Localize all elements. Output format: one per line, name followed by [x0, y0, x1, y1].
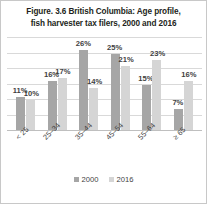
bar-value-label: 10%	[24, 89, 39, 98]
bar-2016	[58, 78, 67, 131]
plot-area: 11% 10% 16% 17%	[7, 37, 202, 131]
figure-title-line-2: fish harvester tax filers, 2000 and 2016	[10, 18, 197, 30]
legend-item-2000: 2000	[74, 175, 99, 184]
bar-slot-2000: 25%	[111, 37, 120, 131]
x-axis-tick: 55–64	[136, 132, 168, 166]
bar-group: 7% 16%	[168, 37, 200, 131]
x-axis-tick: 35–44	[73, 132, 105, 166]
bar-group: 26% 14%	[73, 37, 105, 131]
x-axis-line	[7, 130, 202, 131]
bar-value-label: 7%	[172, 98, 183, 107]
x-axis-tick: 25–34	[42, 132, 74, 166]
bar-group: 11% 10%	[10, 37, 42, 131]
legend-label: 2016	[117, 175, 134, 184]
bar-value-label: 14%	[87, 77, 102, 86]
chart-legend: 2000 2016	[1, 175, 206, 184]
bar-2016	[184, 81, 193, 131]
bar-groups: 11% 10% 16% 17%	[7, 37, 202, 131]
bar-2016	[152, 60, 161, 131]
figure-title-line-1: Figure. 3.6 British Columbia: Age profil…	[10, 6, 197, 18]
bar-slot-2016: 14%	[89, 37, 98, 131]
bar-group: 25% 21%	[105, 37, 137, 131]
x-axis-tick: ≥ 65	[168, 132, 200, 166]
bar-slot-2016: 23%	[152, 37, 161, 131]
x-axis-tick: 45–54	[105, 132, 137, 166]
legend-swatch-icon	[109, 177, 114, 182]
legend-item-2016: 2016	[109, 175, 134, 184]
bar-slot-2000: 11%	[16, 37, 25, 131]
legend-label: 2000	[82, 175, 99, 184]
bar-slot-2000: 16%	[48, 37, 57, 131]
x-axis-tick: < 25	[10, 132, 42, 166]
bar-slot-2000: 7%	[174, 37, 183, 131]
bar-value-label: 16%	[181, 70, 196, 79]
bar-slot-2016: 10%	[26, 37, 35, 131]
bar-2016	[121, 66, 130, 131]
x-axis-labels: < 25 25–34 35–44 45–54 55–64 ≥ 65	[7, 132, 202, 166]
figure-title: Figure. 3.6 British Columbia: Age profil…	[1, 1, 206, 29]
bar-value-label: 21%	[119, 55, 134, 64]
bar-value-label: 15%	[138, 74, 153, 83]
bar-2000	[111, 54, 120, 132]
bar-slot-2016: 16%	[184, 37, 193, 131]
legend-swatch-icon	[74, 177, 79, 182]
bar-group: 16% 17%	[42, 37, 74, 131]
bar-value-label: 17%	[55, 67, 70, 76]
bar-slot-2016: 21%	[121, 37, 130, 131]
bar-2016	[26, 100, 35, 131]
bar-group: 15% 23%	[136, 37, 168, 131]
bar-2000	[79, 50, 88, 131]
figure-container: Figure. 3.6 British Columbia: Age profil…	[0, 0, 207, 204]
bar-slot-2016: 17%	[58, 37, 67, 131]
bar-value-label: 23%	[150, 49, 165, 58]
